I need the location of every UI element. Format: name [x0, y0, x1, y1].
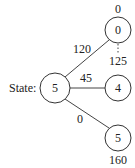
edge-label-0: 120: [73, 42, 91, 56]
child-node-0-bottom-label: 125: [109, 54, 127, 68]
child-node-0-top-label: 0: [115, 2, 121, 16]
child-node-2-value: 5: [115, 131, 121, 145]
state-label: State:: [9, 81, 36, 95]
child-node-2-bottom-label: 160: [109, 153, 127, 167]
root-node-value: 5: [52, 81, 58, 95]
child-node-1-value: 4: [115, 81, 121, 95]
edge-label-1: 45: [80, 71, 92, 85]
edge-label-2: 0: [77, 112, 83, 126]
edge-root-child2: [65, 99, 109, 128]
child-node-0-value: 0: [115, 23, 121, 37]
tree-diagram: State: 5 0 0 125 120 4 45 5 160 0: [0, 0, 135, 168]
